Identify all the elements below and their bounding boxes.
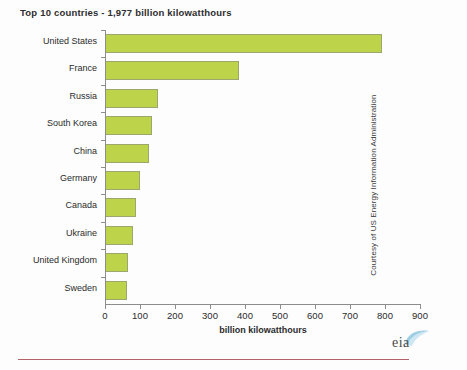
x-axis-tick bbox=[315, 304, 316, 309]
bar bbox=[105, 116, 152, 135]
category-label: Canada bbox=[65, 200, 97, 210]
chart-title: Top 10 countries - 1,977 billion kilowat… bbox=[20, 7, 232, 18]
bar bbox=[105, 253, 128, 272]
y-axis-tick bbox=[101, 85, 105, 86]
x-axis-tick-label: 600 bbox=[307, 310, 323, 321]
category-label: France bbox=[69, 63, 97, 73]
x-axis-tick-label: 0 bbox=[102, 310, 107, 321]
category-label: Russia bbox=[69, 91, 97, 101]
category-label: Ukraine bbox=[66, 228, 97, 238]
y-axis-tick bbox=[101, 249, 105, 250]
x-axis-tick-label: 400 bbox=[237, 310, 253, 321]
category-label: United States bbox=[43, 36, 97, 46]
y-axis-tick bbox=[101, 194, 105, 195]
eia-logo-text: eia bbox=[392, 335, 410, 351]
x-axis-line bbox=[105, 304, 421, 305]
x-axis-tick-label: 300 bbox=[202, 310, 218, 321]
x-axis-tick-label: 800 bbox=[377, 310, 393, 321]
category-label: China bbox=[73, 146, 97, 156]
x-axis-tick-label: 500 bbox=[272, 310, 288, 321]
y-axis-line bbox=[105, 30, 106, 304]
x-axis-tick bbox=[140, 304, 141, 309]
y-axis-tick bbox=[101, 167, 105, 168]
x-axis-tick-label: 100 bbox=[132, 310, 148, 321]
bar bbox=[105, 61, 239, 80]
x-axis-tick bbox=[385, 304, 386, 309]
category-label: Sweden bbox=[64, 283, 97, 293]
y-axis-tick bbox=[101, 30, 105, 31]
y-axis-tick bbox=[101, 222, 105, 223]
bar bbox=[105, 198, 136, 217]
bar bbox=[105, 281, 127, 300]
x-axis-tick-label: 700 bbox=[342, 310, 358, 321]
bar bbox=[105, 144, 149, 163]
x-axis-tick bbox=[350, 304, 351, 309]
y-axis-tick bbox=[101, 57, 105, 58]
y-axis-tick bbox=[101, 277, 105, 278]
x-axis-tick bbox=[210, 304, 211, 309]
bar bbox=[105, 226, 133, 245]
bottom-rule-divider bbox=[18, 359, 409, 360]
bar-row: United States bbox=[105, 30, 420, 57]
x-axis-tick bbox=[280, 304, 281, 309]
bar bbox=[105, 89, 158, 108]
x-axis-tick-label: 200 bbox=[167, 310, 183, 321]
bar-row: Sweden bbox=[105, 277, 420, 304]
category-label: United Kingdom bbox=[33, 255, 97, 265]
bar-row: France bbox=[105, 57, 420, 84]
y-axis-tick bbox=[101, 140, 105, 141]
x-axis-tick-label: 900 bbox=[412, 310, 428, 321]
courtesy-credit: Courtesy of US Energy Information Admini… bbox=[369, 94, 378, 275]
category-label: Germany bbox=[60, 173, 97, 183]
x-axis-tick bbox=[245, 304, 246, 309]
x-axis-tick bbox=[105, 304, 106, 309]
bar bbox=[105, 171, 140, 190]
category-label: South Korea bbox=[47, 118, 97, 128]
eia-logo: eia bbox=[389, 327, 433, 353]
x-axis-tick bbox=[420, 304, 421, 309]
bar bbox=[105, 34, 382, 53]
chart-page: Top 10 countries - 1,977 billion kilowat… bbox=[0, 0, 467, 370]
y-axis-tick bbox=[101, 112, 105, 113]
x-axis-label: billion kilowatthours bbox=[105, 325, 421, 335]
x-axis-tick bbox=[175, 304, 176, 309]
